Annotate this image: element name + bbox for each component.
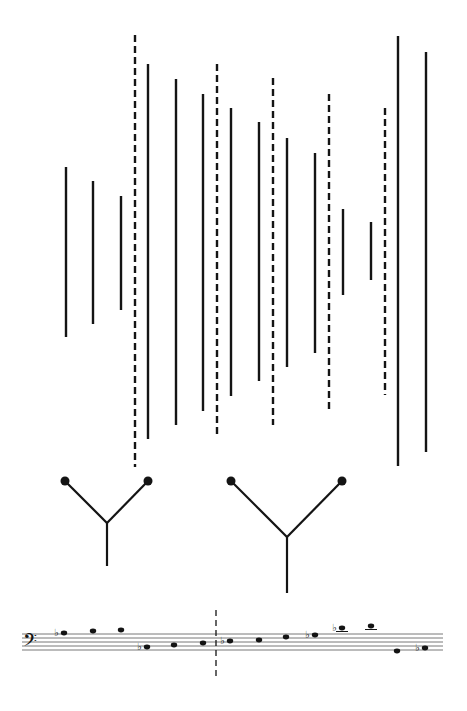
music-staff: 𝄢♭♭♭♭♭♭	[22, 610, 443, 678]
note: ♭	[220, 635, 233, 646]
notehead-icon	[90, 629, 96, 634]
notehead-icon	[171, 643, 177, 648]
flat-icon: ♭	[415, 642, 420, 653]
notehead-icon	[200, 641, 206, 646]
note: ♭	[54, 627, 67, 638]
dot-icon	[144, 477, 153, 486]
note	[283, 635, 289, 640]
flat-icon: ♭	[54, 627, 59, 638]
graphic-score: 𝄢♭♭♭♭♭♭	[0, 0, 467, 711]
note	[200, 641, 206, 646]
note	[256, 638, 262, 643]
note	[171, 643, 177, 648]
flat-icon: ♭	[332, 622, 337, 633]
y-shapes-group	[61, 477, 347, 594]
y-branch-shape	[227, 477, 347, 594]
flat-icon: ♭	[137, 641, 142, 652]
note: ♭	[332, 622, 348, 633]
bass-clef-icon: 𝄢	[23, 630, 37, 655]
notehead-icon	[368, 624, 374, 629]
note	[394, 649, 400, 654]
dot-icon	[227, 477, 236, 486]
vertical-lines-group	[66, 35, 426, 467]
notehead-icon	[61, 631, 67, 636]
notehead-icon	[118, 628, 124, 633]
notehead-icon	[422, 646, 428, 651]
notehead-icon	[144, 645, 150, 650]
dot-icon	[61, 477, 70, 486]
y-branch-shape	[61, 477, 153, 567]
notehead-icon	[339, 626, 345, 631]
note	[90, 629, 96, 634]
note	[365, 624, 377, 630]
notehead-icon	[312, 633, 318, 638]
notehead-icon	[256, 638, 262, 643]
note: ♭	[415, 642, 428, 653]
notehead-icon	[394, 649, 400, 654]
flat-icon: ♭	[220, 635, 225, 646]
note	[118, 628, 124, 633]
dot-icon	[338, 477, 347, 486]
notehead-icon	[283, 635, 289, 640]
flat-icon: ♭	[305, 629, 310, 640]
notehead-icon	[227, 639, 233, 644]
